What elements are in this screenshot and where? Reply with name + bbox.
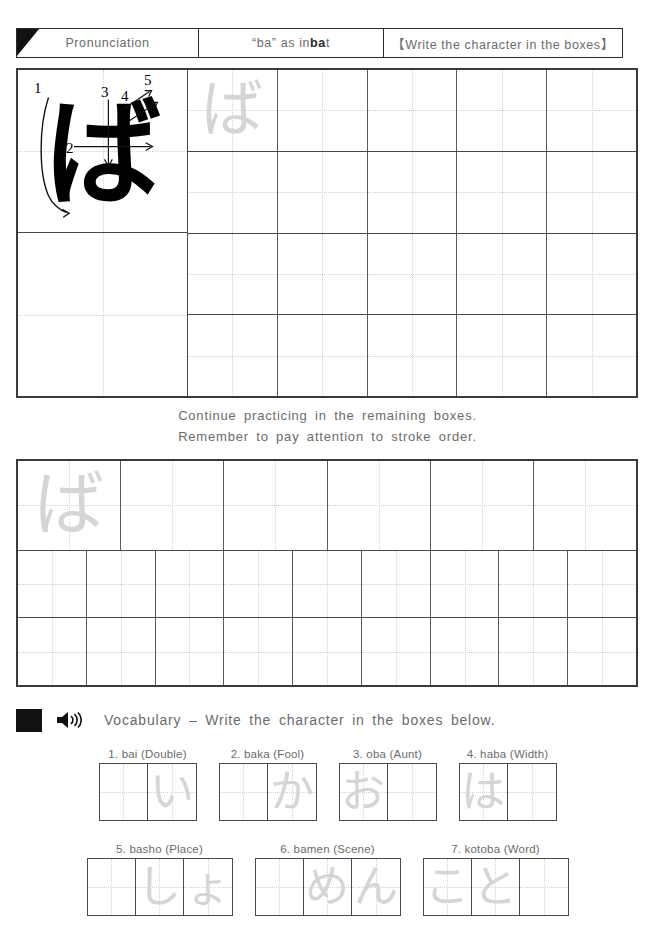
practice-cell[interactable]	[18, 618, 87, 685]
practice-cells-area: ば	[188, 70, 636, 396]
practice-cell[interactable]	[568, 618, 636, 685]
guide-line-horizontal	[547, 274, 636, 275]
vocabulary-answer-box[interactable]: お	[340, 764, 388, 820]
practice-cell[interactable]	[188, 315, 278, 396]
practice-cell[interactable]	[278, 315, 368, 396]
practice-cell[interactable]	[547, 152, 636, 233]
vocabulary-answer-box[interactable]	[256, 859, 304, 915]
reading-bold: ba	[310, 36, 326, 50]
vocabulary-item: 4. haba (Width) は	[459, 748, 557, 821]
practice-cell[interactable]	[87, 618, 156, 685]
practice-cell[interactable]	[547, 315, 636, 396]
practice-cell[interactable]	[457, 70, 547, 151]
vocabulary-item: 7. kotoba (Word) こ と	[423, 843, 569, 916]
stroke-number-5: 5	[144, 72, 152, 89]
vocabulary-answer-box[interactable]	[100, 764, 148, 820]
guide-line-horizontal	[224, 505, 326, 506]
practice-cell[interactable]	[568, 551, 636, 618]
practice-cell[interactable]	[431, 551, 500, 618]
guide-line-vertical	[275, 461, 276, 550]
practice-cell[interactable]	[368, 70, 458, 151]
practice-cell[interactable]	[431, 618, 500, 685]
vocabulary-boxes: こ と	[423, 858, 569, 916]
practice-cell[interactable]	[156, 618, 225, 685]
guide-line-vertical	[502, 70, 503, 151]
practice-cell[interactable]	[368, 234, 458, 315]
vocabulary-title: Vocabulary – Write the character in the …	[104, 712, 495, 728]
vocabulary-trace-char	[520, 859, 568, 915]
practice-row	[188, 152, 636, 234]
practice-cell[interactable]	[547, 70, 636, 151]
guide-line-horizontal	[87, 584, 155, 585]
vocabulary-answer-box[interactable]: し	[136, 859, 184, 915]
practice-cell[interactable]	[368, 152, 458, 233]
vocabulary-item: 2. baka (Fool) か	[219, 748, 317, 821]
guide-line-vertical	[585, 461, 586, 550]
practice-cell[interactable]	[188, 152, 278, 233]
guide-line-horizontal	[534, 505, 636, 506]
guide-line-horizontal	[499, 584, 567, 585]
guide-line-horizontal	[18, 652, 86, 653]
guide-line-vertical	[379, 461, 380, 550]
vocabulary-answer-box[interactable]	[220, 764, 268, 820]
vocabulary-answer-box[interactable]: め	[304, 859, 352, 915]
practice-cell[interactable]	[547, 234, 636, 315]
guide-line-vertical	[533, 618, 534, 685]
practice-cell[interactable]	[457, 315, 547, 396]
practice-cell[interactable]	[293, 551, 362, 618]
guide-line-horizontal	[224, 584, 292, 585]
guide-line-vertical	[322, 152, 323, 233]
practice-cell[interactable]	[368, 315, 458, 396]
vocabulary-answer-box[interactable]: い	[148, 764, 196, 820]
practice-cell[interactable]	[362, 551, 431, 618]
guide-line-vertical	[412, 234, 413, 315]
vocabulary-boxes: か	[219, 763, 317, 821]
guide-line-vertical	[592, 152, 593, 233]
practice-cell[interactable]	[278, 70, 368, 151]
guide-line-horizontal	[499, 652, 567, 653]
guide-line-vertical	[327, 618, 328, 685]
vocabulary-answer-box[interactable]	[388, 764, 436, 820]
practice-cell[interactable]	[362, 618, 431, 685]
vocabulary-answer-box[interactable]: こ	[424, 859, 472, 915]
practice-cell[interactable]	[156, 551, 225, 618]
vocabulary-answer-box[interactable]: か	[268, 764, 316, 820]
guide-line-horizontal	[293, 584, 361, 585]
practice-cell[interactable]	[457, 234, 547, 315]
guide-line-vertical	[189, 618, 190, 685]
practice-cell[interactable]	[278, 234, 368, 315]
practice-cell-trace[interactable]: ば	[18, 461, 121, 550]
vocabulary-answer-box[interactable]: は	[460, 764, 508, 820]
vocabulary-answer-box[interactable]	[520, 859, 568, 915]
vocabulary-answer-box[interactable]: ん	[352, 859, 400, 915]
practice-cell[interactable]	[224, 618, 293, 685]
practice-cell-trace[interactable]: ば	[188, 70, 278, 151]
practice-cell[interactable]	[499, 551, 568, 618]
practice-cell[interactable]	[278, 152, 368, 233]
model-blank-cell[interactable]	[18, 233, 187, 396]
vocabulary-boxes: い	[99, 763, 197, 821]
guide-line-vertical	[602, 618, 603, 685]
practice-cell[interactable]	[18, 551, 87, 618]
header-table: Pronunciation “ba” as in bat 【Write the …	[16, 28, 623, 58]
practice-cell[interactable]	[534, 461, 636, 550]
speaker-icon[interactable]	[56, 710, 82, 730]
practice-cell[interactable]	[328, 461, 431, 550]
vocabulary-answer-box[interactable]: ょ	[184, 859, 232, 915]
practice-cell[interactable]	[224, 551, 293, 618]
vocabulary-label: 4. haba (Width)	[467, 748, 549, 760]
practice-cell[interactable]	[188, 234, 278, 315]
vocabulary-answer-box[interactable]	[88, 859, 136, 915]
practice-cell[interactable]	[499, 618, 568, 685]
practice-cell[interactable]	[293, 618, 362, 685]
practice-cell[interactable]	[457, 152, 547, 233]
vocabulary-answer-box[interactable]: と	[472, 859, 520, 915]
vocabulary-answer-box[interactable]	[508, 764, 556, 820]
practice-cell[interactable]	[224, 461, 327, 550]
practice-cell[interactable]	[431, 461, 534, 550]
header-instruction-text: 【Write the character in the boxes】	[392, 34, 615, 53]
practice-cell[interactable]	[87, 551, 156, 618]
guide-line-horizontal	[368, 274, 457, 275]
guide-line-vertical	[592, 315, 593, 396]
practice-cell[interactable]	[121, 461, 224, 550]
